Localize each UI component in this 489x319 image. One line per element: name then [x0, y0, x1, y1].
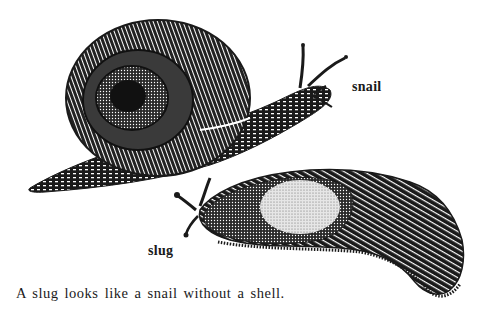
snail-label: snail: [352, 79, 382, 95]
snail-illustration: [29, 20, 348, 192]
figure-caption: A slug looks like a snail without a shel…: [16, 285, 285, 302]
slug-illustration: [174, 170, 464, 297]
illustration: [0, 0, 489, 319]
slug-label: slug: [148, 243, 173, 259]
